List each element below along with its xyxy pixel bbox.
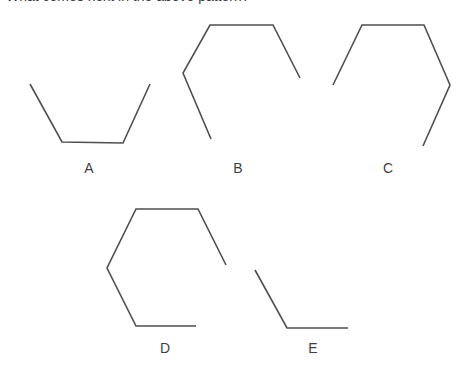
shape-d-outline <box>107 209 226 326</box>
shape-a-outline <box>30 84 150 143</box>
shape-b-outline <box>183 25 300 139</box>
shape-e-outline <box>255 270 348 328</box>
shape-label-d: D <box>150 341 180 355</box>
shape-label-a: A <box>74 161 104 175</box>
shapes-canvas <box>0 0 463 377</box>
pattern-question-figure: What comes next in the above pattern? A … <box>0 0 463 377</box>
shape-label-b: B <box>223 161 253 175</box>
shape-label-e: E <box>298 341 328 355</box>
shape-label-c: C <box>373 161 403 175</box>
shape-c-outline <box>333 25 450 146</box>
